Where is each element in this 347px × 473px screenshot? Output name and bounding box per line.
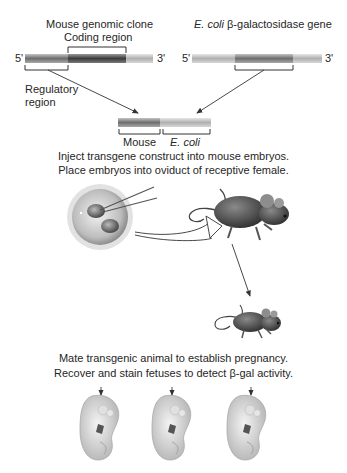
ecoli-lacz-gene-bar — [192, 54, 322, 70]
step2-line1: Mate transgenic animal to establish preg… — [0, 352, 347, 365]
fetus-icon-3 — [227, 395, 266, 460]
fetus-icon-2 — [152, 395, 191, 460]
left-five-prime-label: 5' — [15, 52, 23, 65]
arrow-embryo-to-mouse — [135, 222, 210, 234]
regulatory-region-label-line1: Regulatory — [25, 83, 78, 96]
mouse-genomic-clone-bar — [25, 47, 153, 70]
microinjection-embryo-icon — [67, 184, 157, 250]
ecoli-gene-title: E. coli β-galactosidase gene — [194, 18, 332, 31]
female-mouse-icon — [189, 189, 289, 240]
mouse-genomic-clone-title: Mouse genomic clone — [46, 18, 153, 31]
arrow-to-transgenic-mouse — [232, 244, 250, 296]
transgenic-mouse-icon — [215, 305, 281, 338]
step1-line1: Inject transgene construct into mouse em… — [0, 150, 347, 163]
diagram-graphics — [0, 0, 347, 473]
fetus-icon-1 — [80, 395, 119, 460]
coding-region-label: Coding region — [64, 31, 133, 44]
step1-line2: Place embryos into oviduct of receptive … — [0, 164, 347, 177]
transgene-construct-bar — [118, 118, 211, 134]
construct-ecoli-label: E. coli — [170, 136, 200, 149]
construct-mouse-label: Mouse — [123, 136, 156, 149]
right-five-prime-label: 5' — [182, 52, 190, 65]
right-three-prime-label: 3' — [325, 52, 333, 65]
ecoli-gene-title-italic: E. coli — [194, 18, 224, 30]
arrow-ecoli-to-construct — [197, 70, 264, 113]
ecoli-gene-title-rest: β-galactosidase gene — [224, 18, 332, 30]
left-three-prime-label: 3' — [157, 52, 165, 65]
regulatory-region-label-line2: region — [25, 96, 56, 109]
step2-line2: Recover and stain fetuses to detect β-ga… — [0, 367, 347, 380]
